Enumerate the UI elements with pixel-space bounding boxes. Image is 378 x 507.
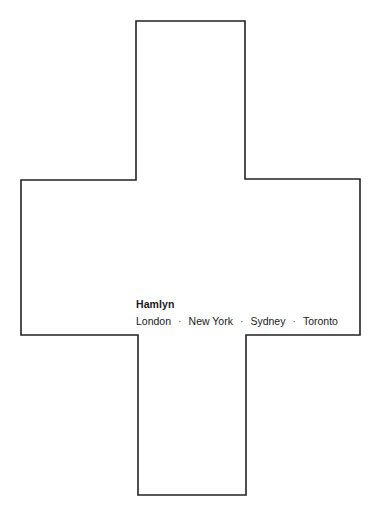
cross-outline bbox=[0, 0, 378, 507]
city-london: London bbox=[136, 315, 171, 327]
city-toronto: Toronto bbox=[303, 315, 338, 327]
publisher-imprint: Hamlyn London·New York·Sydney·Toronto bbox=[136, 298, 338, 328]
separator-dot: · bbox=[292, 315, 296, 328]
city-new-york: New York bbox=[189, 315, 233, 327]
separator-dot: · bbox=[240, 315, 244, 328]
publisher-cities: London·New York·Sydney·Toronto bbox=[136, 315, 338, 328]
separator-dot: · bbox=[178, 315, 182, 328]
city-sydney: Sydney bbox=[250, 315, 285, 327]
publisher-name: Hamlyn bbox=[136, 298, 338, 311]
